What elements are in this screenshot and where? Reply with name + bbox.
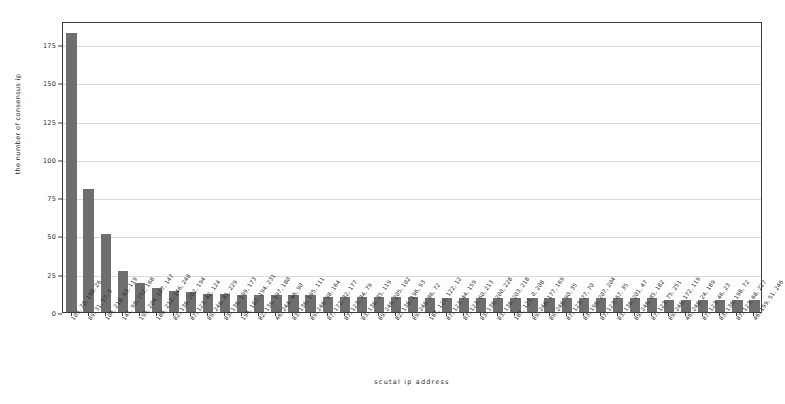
y-axis-tick-label: 75 <box>4 195 56 203</box>
bar-chart-figure: the number of consensus ip 0255075100125… <box>0 0 785 404</box>
y-axis-tick-label: 100 <box>4 157 56 165</box>
y-axis-tick-label: 50 <box>4 233 56 241</box>
y-axis: the number of consensus ip 0255075100125… <box>0 22 62 313</box>
y-axis-tick-label: 25 <box>4 272 56 280</box>
y-axis-tick-label: 0 <box>4 310 56 318</box>
x-axis-label: scutal ip address <box>62 378 762 386</box>
plot-area <box>62 22 762 313</box>
y-axis-tick-label: 175 <box>4 42 56 50</box>
bar <box>66 33 76 312</box>
y-axis-tick-label: 125 <box>4 119 56 127</box>
y-axis-tick-label: 150 <box>4 80 56 88</box>
bar-series <box>63 23 761 312</box>
